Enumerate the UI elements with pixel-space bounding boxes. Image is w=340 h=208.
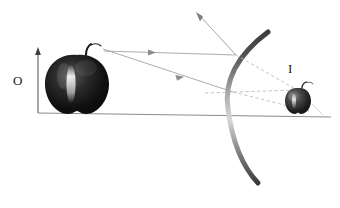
incident-ray-parallel [104, 50, 236, 56]
object-label: O [13, 74, 22, 87]
small-apple-image [285, 82, 313, 114]
diagram-svg [0, 0, 340, 208]
large-apple-object [45, 44, 109, 114]
incident-ray-to-vertex [103, 49, 233, 92]
object-height-arrow [35, 47, 41, 113]
virtual-extension-flat [205, 90, 297, 93]
principal-axis [38, 113, 331, 117]
ray-diagram-canvas: O I [0, 0, 340, 208]
image-label: I [288, 62, 292, 75]
reflected-ray-upward [196, 12, 236, 55]
image-construction-tick [312, 104, 323, 115]
